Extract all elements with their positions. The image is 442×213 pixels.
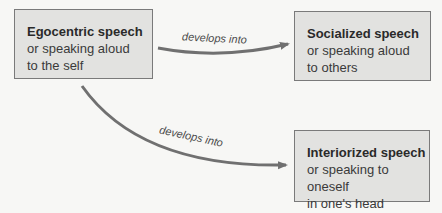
node-interiorized: Interiorized speech or speaking to onese… <box>294 130 430 202</box>
node-text: or speaking aloud <box>307 42 430 59</box>
node-text: to others <box>307 59 430 76</box>
node-text: in one's head <box>307 195 429 212</box>
edge-label-2: develops into <box>158 124 224 149</box>
node-text: to the self <box>27 57 152 74</box>
arrow-egocentric-to-socialized <box>158 44 288 53</box>
node-title: Egocentric speech <box>27 23 152 40</box>
edge-label-1: develops into <box>182 30 247 45</box>
node-title: Interiorized speech <box>307 144 429 161</box>
node-socialized: Socialized speech or speaking aloud to o… <box>294 11 431 81</box>
node-text: or speaking aloud <box>27 40 152 57</box>
node-text: or speaking to oneself <box>307 161 429 195</box>
node-title: Socialized speech <box>307 25 430 42</box>
arrow-egocentric-to-interiorized <box>82 86 286 165</box>
node-egocentric: Egocentric speech or speaking aloud to t… <box>14 9 153 79</box>
